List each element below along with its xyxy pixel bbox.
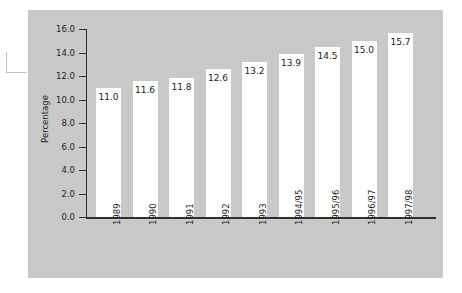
- y-axis-tick-label: 12.0: [35, 72, 75, 81]
- y-axis-tick-label: 6.0: [35, 143, 75, 152]
- bar: [169, 78, 194, 217]
- y-axis-tick-label: 16.0: [35, 25, 75, 34]
- bar: [96, 88, 121, 217]
- y-axis-tick: [79, 100, 86, 101]
- x-axis-tick-label: 1992: [222, 203, 231, 225]
- x-axis-tick-label: 1993: [259, 203, 268, 225]
- bar-value-label: 13.9: [275, 59, 308, 68]
- y-axis-tick: [79, 194, 86, 195]
- y-axis-tick: [79, 147, 86, 148]
- y-axis-tick-label: 0.0: [35, 213, 75, 222]
- bar: [206, 69, 231, 217]
- y-axis-tick: [79, 123, 86, 124]
- bar-value-label: 12.6: [202, 74, 235, 83]
- x-axis-tick-label: 1989: [113, 203, 122, 225]
- y-axis-tick: [79, 170, 86, 171]
- bar-value-label: 11.0: [92, 93, 125, 102]
- bar-value-label: 15.7: [384, 38, 417, 47]
- x-axis-tick-label: 1990: [149, 203, 158, 225]
- y-axis-tick: [79, 53, 86, 54]
- y-axis-tick: [79, 217, 86, 218]
- x-axis-tick-label: 1997/98: [405, 190, 414, 225]
- chart-panel: Percentage 0.02.04.06.08.010.012.014.016…: [28, 10, 443, 278]
- y-axis-tick: [79, 29, 86, 30]
- bar-value-label: 14.5: [311, 52, 344, 61]
- bar: [133, 81, 158, 217]
- x-axis-tick-label: 1994/95: [295, 190, 304, 225]
- y-axis-tick-label: 8.0: [35, 119, 75, 128]
- y-axis-tick-label: 14.0: [35, 49, 75, 58]
- x-axis-tick-label: 1991: [186, 203, 195, 225]
- bar: [242, 62, 267, 217]
- bar-value-label: 11.8: [165, 83, 198, 92]
- bar-value-label: 13.2: [238, 67, 271, 76]
- y-axis-tick-label: 2.0: [35, 190, 75, 199]
- y-axis-line: [86, 29, 87, 218]
- plot-area: Percentage 0.02.04.06.08.010.012.014.016…: [28, 10, 443, 278]
- bar-value-label: 11.6: [129, 86, 162, 95]
- y-axis-tick-label: 4.0: [35, 166, 75, 175]
- bar-value-label: 15.0: [348, 46, 381, 55]
- x-axis-tick-label: 1995/96: [332, 190, 341, 225]
- crop-registration-mark: [6, 52, 27, 73]
- x-axis-tick-label: 1996/97: [368, 190, 377, 225]
- y-axis-tick-label: 10.0: [35, 96, 75, 105]
- y-axis-tick: [79, 76, 86, 77]
